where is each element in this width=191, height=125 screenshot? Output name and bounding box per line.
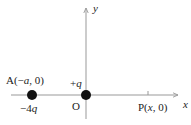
charge-diagram: y x A(−a, 0) −4q +q O P(x, 0) — [0, 0, 191, 125]
point-a-label: A(−a, 0) — [6, 74, 44, 87]
charge-a-value: −4q — [20, 102, 38, 114]
x-axis-label: x — [182, 98, 188, 110]
charge-o-dot — [81, 90, 91, 100]
y-axis-label: y — [92, 2, 98, 14]
charge-o-value: +q — [70, 77, 82, 89]
charge-a-dot — [27, 90, 37, 100]
origin-label: O — [72, 100, 80, 112]
point-p-label: P(x, 0) — [138, 101, 168, 114]
